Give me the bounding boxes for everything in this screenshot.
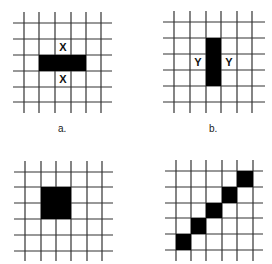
filled-cell bbox=[222, 187, 237, 203]
caption-b: b. bbox=[209, 124, 217, 134]
filled-cell bbox=[39, 55, 86, 71]
cell-marker-x: X bbox=[55, 71, 71, 87]
cell-marker-y: Y bbox=[190, 54, 206, 70]
figure-canvas: XXYY a. b. bbox=[0, 0, 272, 264]
cell-marker-y: Y bbox=[221, 54, 237, 70]
grid-diagrams bbox=[0, 0, 272, 264]
filled-cell bbox=[206, 203, 222, 218]
filled-cell bbox=[41, 187, 71, 219]
filled-cell bbox=[176, 234, 191, 250]
grid-panel-b bbox=[163, 11, 265, 113]
grid-panel-d bbox=[165, 160, 263, 261]
filled-cell bbox=[237, 171, 253, 187]
caption-a: a. bbox=[58, 124, 66, 134]
cell-marker-x: X bbox=[55, 39, 71, 55]
filled-cell bbox=[191, 218, 206, 234]
grid-panel-a bbox=[13, 12, 112, 113]
grid-panel-c bbox=[14, 161, 113, 261]
filled-cell bbox=[206, 38, 221, 86]
